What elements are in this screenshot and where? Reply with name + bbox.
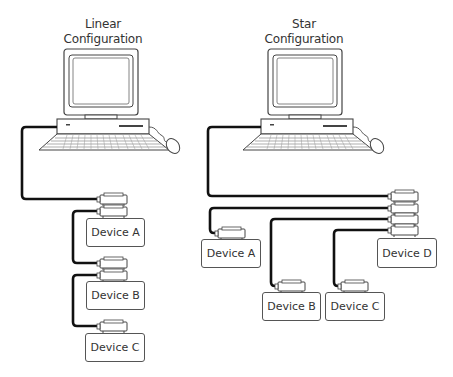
star-hub-connectors	[388, 190, 418, 237]
star-title: Star Configuration	[256, 17, 352, 47]
star-device-a: Device A	[201, 239, 261, 268]
star-title-line2: Configuration	[256, 32, 352, 47]
star-device-b: Device B	[262, 292, 321, 321]
linear-title-line1: Linear	[55, 17, 151, 32]
linear-title-line2: Configuration	[55, 32, 151, 47]
star-device-c: Device C	[325, 292, 385, 321]
linear-connectors	[97, 193, 127, 333]
linear-device-c: Device C	[85, 333, 145, 362]
linear-device-b: Device B	[86, 281, 145, 310]
star-title-line1: Star	[256, 17, 352, 32]
linear-title: Linear Configuration	[55, 17, 151, 47]
diagram-canvas	[0, 0, 453, 377]
star-device-d: Device D	[377, 238, 437, 268]
linear-device-a: Device A	[86, 218, 145, 247]
linear-computer	[39, 49, 183, 156]
star-computer	[243, 49, 387, 156]
